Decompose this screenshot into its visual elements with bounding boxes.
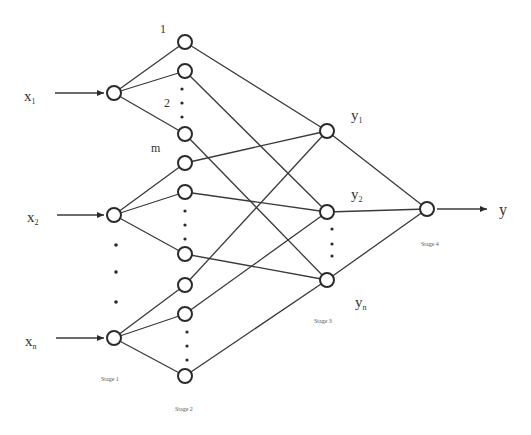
edge-stage1-stage2: [114, 163, 185, 215]
ellipsis-dot: [114, 300, 118, 304]
edge-stage2-stage3: [185, 131, 327, 285]
input-label-x2: x2: [27, 209, 39, 227]
output-label-yn: yn: [355, 294, 367, 312]
edge-stage1-stage2: [114, 42, 185, 93]
stage2-node: [178, 156, 192, 170]
final-output-label: y: [499, 201, 507, 219]
stage1-node: [107, 331, 121, 345]
edge-stage1-stage2: [114, 192, 185, 215]
stage2-node: [178, 127, 192, 141]
network-nodes: [107, 35, 434, 383]
edge-stage1-stage2: [114, 338, 185, 376]
edge-stage1-stage2: [114, 215, 185, 254]
ellipsis-dot: [185, 330, 188, 333]
stage1-node: [107, 208, 121, 222]
stage2-node: [178, 369, 192, 383]
edge-stage1-stage2: [114, 93, 185, 134]
ellipsis-dot: [114, 270, 118, 274]
stage3-node: [320, 273, 334, 287]
ellipsis-dot: [180, 115, 183, 118]
stage2-node: [178, 35, 192, 49]
edge-stage2-stage3: [185, 212, 327, 314]
stage2-node: [178, 64, 192, 78]
edge-stage2-stage3: [185, 280, 327, 376]
ellipsis-dot: [183, 223, 186, 226]
stage1-node: [107, 86, 121, 100]
edge-stage3-stage4: [327, 131, 427, 209]
edge-stage2-stage3: [185, 71, 327, 212]
output-label-y2: y2: [351, 186, 363, 204]
ellipsis-dot: [180, 87, 183, 90]
stage-3-label: Stage 3: [314, 318, 332, 324]
edge-stage3-stage4: [327, 209, 427, 212]
stage2-node: [178, 278, 192, 292]
ellipsis-dot: [180, 101, 183, 104]
edge-stage3-stage4: [327, 209, 427, 280]
edge-stage2-stage3: [185, 131, 327, 163]
stage4-node: [420, 202, 434, 216]
stage-4-label: Stage 4: [421, 241, 439, 247]
stage-1-label: Stage 1: [101, 376, 119, 382]
stage2-node: [178, 185, 192, 199]
stage3-node: [320, 124, 334, 138]
input-label-xn: xn: [25, 333, 37, 351]
stage3-node: [320, 205, 334, 219]
ellipsis-dots: [114, 87, 333, 361]
input-arrows: [55, 93, 104, 338]
ellipsis-dot: [183, 209, 186, 212]
edge-stage1-stage2: [114, 314, 185, 338]
edge-stage2-stage3: [185, 192, 327, 212]
hidden-label-2: 2: [164, 96, 170, 110]
stage2-node: [178, 247, 192, 261]
connection-edges: [114, 42, 427, 376]
hidden-label-m: m: [151, 141, 161, 155]
input-label-x1: x1: [24, 88, 36, 106]
ellipsis-dot: [330, 242, 333, 245]
edge-stage1-stage2: [114, 71, 185, 93]
ellipsis-dot: [114, 243, 118, 247]
ellipsis-dot: [330, 254, 333, 257]
multi-stage-network-diagram: x1 x2 xn 1 2 m y1 y2 yn y Stage 1 Stage …: [0, 0, 531, 435]
ellipsis-dot: [330, 227, 333, 230]
stage-2-label: Stage 2: [175, 406, 193, 412]
ellipsis-dot: [185, 358, 188, 361]
output-label-y1: y1: [351, 107, 363, 125]
ellipsis-dot: [183, 237, 186, 240]
ellipsis-dot: [185, 344, 188, 347]
hidden-label-1: 1: [160, 22, 166, 36]
edge-stage2-stage3: [185, 42, 327, 131]
edge-stage1-stage2: [114, 285, 185, 338]
stage2-node: [178, 307, 192, 321]
